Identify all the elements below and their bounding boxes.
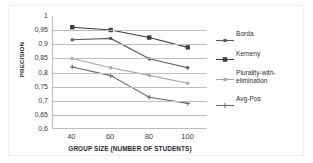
legend-marker-icon — [216, 31, 234, 40]
data-point-marker — [186, 45, 190, 49]
gridline — [53, 87, 207, 88]
y-tick-label: 1 — [24, 12, 48, 20]
y-tick-label: 0,65 — [24, 111, 48, 119]
data-point-marker — [147, 35, 151, 39]
data-point-marker — [109, 37, 112, 40]
legend-marker-icon — [216, 50, 234, 59]
x-tick-label: 80 — [134, 132, 164, 141]
y-tick-label: 0,75 — [24, 83, 48, 91]
data-point-marker — [71, 38, 74, 41]
chart-figure: PRECISION 10,950,90,850,80,750,70,650,6 … — [0, 0, 313, 163]
gridline — [53, 73, 207, 74]
legend-item-3[interactable]: Avg-Pos — [216, 95, 308, 105]
legend-item-1[interactable]: Kemeny — [216, 50, 308, 60]
y-axis-tick-labels: 10,950,90,850,80,750,70,650,6 — [21, 0, 48, 163]
data-point-marker — [109, 66, 112, 69]
data-point-marker — [147, 95, 152, 100]
data-point-marker — [70, 65, 75, 70]
x-axis-title: GROUP SIZE (NUMBER OF STUDENTS) — [20, 145, 240, 152]
gridline — [53, 115, 207, 116]
plot-area — [52, 16, 207, 129]
y-tick-label: 0,6 — [24, 125, 48, 133]
data-point-marker — [186, 82, 189, 85]
y-tick-label: 0,95 — [24, 26, 48, 34]
legend-label: Avg-Pos — [236, 95, 261, 103]
gridline — [53, 44, 207, 45]
legend-label: Borda — [236, 30, 254, 38]
gridline — [53, 58, 207, 59]
x-tick-label: 100 — [173, 132, 203, 141]
chart-legend: BordaKemenyPlurality-with- eliminationAv… — [216, 30, 308, 115]
data-point-marker — [108, 73, 113, 78]
legend-item-0[interactable]: Borda — [216, 30, 308, 40]
y-tick-label: 0,85 — [24, 54, 48, 62]
data-point-marker — [70, 25, 74, 29]
legend-marker-icon — [216, 96, 234, 105]
data-point-marker — [186, 66, 189, 69]
data-point-marker — [148, 74, 151, 77]
y-tick-label: 0,7 — [24, 97, 48, 105]
legend-marker-icon — [216, 70, 234, 79]
x-tick-label: 40 — [56, 132, 86, 141]
legend-item-2[interactable]: Plurality-with- elimination — [216, 69, 308, 85]
legend-label: Plurality-with- elimination — [236, 69, 276, 85]
y-tick-label: 0,9 — [24, 40, 48, 48]
y-tick-label: 0,8 — [24, 69, 48, 77]
x-tick-label: 60 — [95, 132, 125, 141]
legend-label: Kemeny — [236, 50, 260, 58]
gridline — [53, 101, 207, 102]
gridline — [53, 30, 207, 31]
